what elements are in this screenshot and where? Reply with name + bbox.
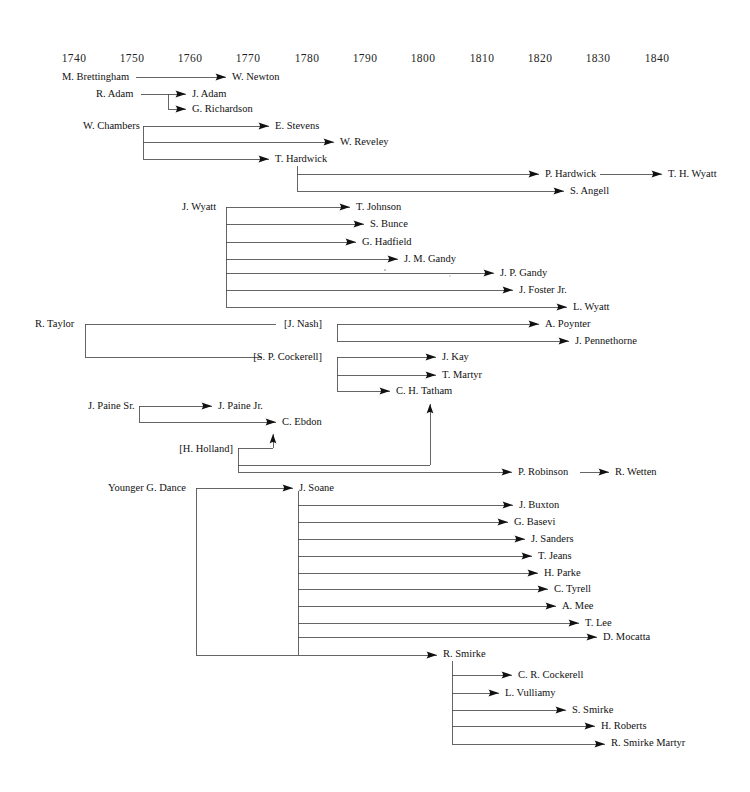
person-label-l-wyatt: L. Wyatt (573, 301, 610, 312)
person-label-s-bunce: S. Bunce (370, 218, 408, 229)
person-label-j-foster-jr: J. Foster Jr. (519, 284, 567, 295)
person-label-t-h-wyatt: T. H. Wyatt (668, 168, 717, 179)
person-label-h-holland: [H. Holland] (179, 443, 233, 454)
person-label-s-p-cockerell: [S. P. Cockerell] (253, 351, 322, 362)
person-label-d-mocatta: D. Mocatta (603, 631, 651, 642)
axis-tick-1790: 1790 (353, 52, 378, 64)
person-label-r-taylor: R. Taylor (35, 318, 75, 329)
person-label-j-nash: [J. Nash] (284, 318, 322, 329)
person-label-s-angell: S. Angell (570, 185, 609, 196)
person-label-c-h-tatham: C. H. Tatham (396, 385, 452, 396)
person-label-t-johnson: T. Johnson (356, 201, 402, 212)
person-label-m-brettingham: M. Brettingham (62, 71, 129, 82)
axis-tick-1780: 1780 (295, 52, 320, 64)
axis-tick-1840: 1840 (645, 52, 670, 64)
axis-tick-1750: 1750 (120, 52, 145, 64)
person-label-j-p-gandy: J. P. Gandy (500, 267, 548, 278)
person-label-s-smirke: S. Smirke (572, 704, 614, 715)
person-label-a-poynter: A. Poynter (545, 318, 591, 329)
axis-tick-1810: 1810 (470, 52, 495, 64)
person-label-p-hardwick: P. Hardwick (545, 168, 597, 179)
person-label-j-m-gandy: J. M. Gandy (404, 253, 457, 264)
person-label-p-robinson: P. Robinson (518, 466, 569, 477)
person-label-j-soane: J. Soane (299, 482, 334, 493)
person-label-w-chambers: W. Chambers (83, 120, 140, 131)
person-label-j-wyatt: J. Wyatt (182, 201, 216, 212)
person-label-g-basevi: G. Basevi (514, 516, 555, 527)
person-label-r-smirke: R. Smirke (443, 648, 486, 659)
person-label-h-parke: H. Parke (544, 567, 581, 578)
person-label-r-wetten: R. Wetten (615, 466, 657, 477)
person-label-t-martyr: T. Martyr (442, 369, 483, 380)
axis-tick-1800: 1800 (411, 52, 436, 64)
person-label-e-stevens: E. Stevens (275, 120, 319, 131)
person-label-t-lee: T. Lee (585, 617, 612, 628)
scan-speck-0 (384, 269, 386, 271)
person-label-c-r-cockerell: C. R. Cockerell (518, 669, 583, 680)
chart-background (0, 0, 750, 792)
person-label-j-paine-sr: J. Paine Sr. (88, 400, 135, 411)
person-label-g-hadfield: G. Hadfield (362, 236, 412, 247)
person-label-c-tyrell: C. Tyrell (554, 583, 591, 594)
lineage-chart: 1740175017601770178017901800181018201830… (0, 0, 750, 792)
person-label-a-mee: A. Mee (562, 600, 594, 611)
person-label-j-sanders: J. Sanders (531, 533, 574, 544)
person-label-j-kay: J. Kay (442, 351, 470, 362)
axis-tick-1830: 1830 (586, 52, 611, 64)
axis-tick-1820: 1820 (528, 52, 553, 64)
person-label-c-ebdon: C. Ebdon (282, 416, 322, 427)
person-label-t-hardwick: T. Hardwick (275, 153, 328, 164)
person-label-t-jeans: T. Jeans (538, 550, 572, 561)
person-label-g-richardson: G. Richardson (192, 103, 253, 114)
person-label-h-roberts: H. Roberts (601, 720, 647, 731)
axis-tick-1740: 1740 (62, 52, 87, 64)
person-label-j-buxton: J. Buxton (519, 499, 560, 510)
person-label-w-newton: W. Newton (232, 71, 280, 82)
person-label-r-adam: R. Adam (96, 88, 133, 99)
person-label-j-adam: J. Adam (192, 88, 226, 99)
person-label-j-paine-jr: J. Paine Jr. (218, 400, 263, 411)
axis-tick-1770: 1770 (236, 52, 261, 64)
person-label-w-reveley: W. Reveley (340, 136, 389, 147)
axis-tick-1760: 1760 (178, 52, 203, 64)
person-label-r-smirke-martyr: R. Smirke Martyr (611, 737, 686, 748)
person-label-l-vulliamy: L. Vulliamy (505, 687, 556, 698)
person-label-younger-g-dance: Younger G. Dance (108, 482, 186, 493)
lineage-diagram-canvas: 1740175017601770178017901800181018201830… (0, 0, 750, 792)
person-label-j-pennethorne: J. Pennethorne (575, 335, 637, 346)
scan-speck-1 (449, 275, 451, 277)
